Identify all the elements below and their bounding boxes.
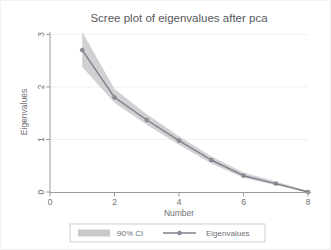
- data-point-marker: [177, 139, 181, 143]
- legend-series-marker: [178, 231, 182, 235]
- data-point-marker: [113, 96, 117, 100]
- x-tick-label-8: 8: [306, 197, 311, 207]
- legend: 90% CI Eigenvalues: [70, 224, 265, 242]
- data-point-marker: [274, 182, 278, 186]
- y-tick-label-1: 1: [36, 137, 46, 142]
- x-tick-label-0: 0: [48, 197, 53, 207]
- x-tick-label-4: 4: [177, 197, 182, 207]
- data-point-marker: [80, 48, 84, 52]
- x-axis-title: Number: [164, 208, 194, 218]
- x-tick-label-6: 6: [241, 197, 246, 207]
- y-tick-label-2: 2: [36, 84, 46, 89]
- data-point-marker: [209, 158, 213, 162]
- data-point-marker: [145, 118, 149, 122]
- legend-ci-swatch: [78, 230, 110, 237]
- y-tick-label-0: 0: [36, 189, 46, 194]
- legend-ci-label: 90% CI: [117, 229, 143, 238]
- y-axis-ticks: [46, 34, 50, 192]
- x-axis-ticks: [50, 193, 308, 197]
- y-tick-label-3: 3: [36, 32, 46, 37]
- legend-series-label: Eigenvalues: [206, 229, 250, 238]
- x-tick-label-2: 2: [112, 197, 117, 207]
- chart-figure: 3 2 1 0 Eigenvalues 0 2 4 6 8 Number Scr…: [0, 0, 331, 250]
- scree-plot-svg: 3 2 1 0 Eigenvalues 0 2 4 6 8 Number Scr…: [0, 0, 331, 250]
- y-axis-title: Eigenvalues: [19, 89, 29, 135]
- data-point-marker: [242, 174, 246, 178]
- page-title: Scree plot of eigenvalues after pca: [90, 12, 268, 24]
